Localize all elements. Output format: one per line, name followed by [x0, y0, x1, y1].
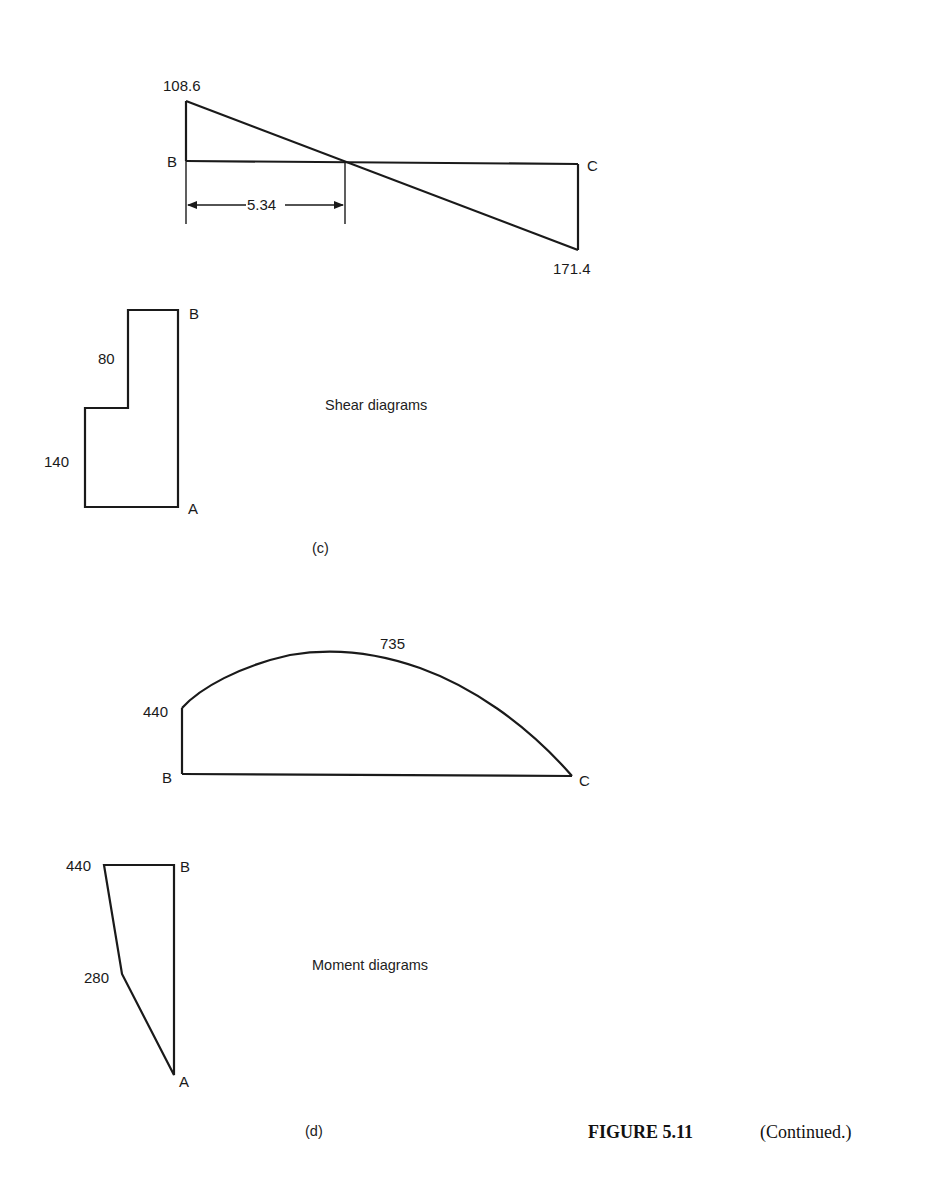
node-label-b: B: [162, 769, 172, 786]
node-label-a: A: [179, 1073, 189, 1090]
zero-shear-distance: 5.34: [247, 196, 276, 213]
moment-curve: [182, 652, 572, 776]
moment-diagrams-title: Moment diagrams: [312, 957, 428, 973]
figure-5-11: 108.6 B C 171.4 5.34 B 80 140 A Shear di…: [0, 0, 931, 1177]
column-moment-mid-value: 280: [84, 969, 109, 986]
shear-diagram-beam-bc: 108.6 B C 171.4 5.34: [163, 77, 598, 277]
column-moment-top-value: 440: [66, 857, 91, 874]
moment-diagram-column-ab: 440 B 280 A: [66, 857, 190, 1090]
node-label-c: C: [587, 157, 598, 174]
figure-continued: (Continued.): [760, 1122, 852, 1143]
shear-right-value: 171.4: [553, 260, 591, 277]
column-shear-outline: [85, 310, 178, 507]
node-label-b: B: [189, 305, 199, 322]
beam-baseline: [186, 161, 578, 164]
moment-max-value: 735: [380, 635, 405, 652]
shear-line: [186, 101, 578, 250]
panel-tag-c: (c): [312, 540, 329, 556]
node-label-a: A: [188, 500, 198, 517]
column-moment-outline: [104, 865, 174, 1075]
node-label-b: B: [180, 858, 190, 875]
figure-number: FIGURE 5.11: [588, 1122, 693, 1142]
panel-tag-d: (d): [305, 1123, 323, 1139]
node-label-b: B: [167, 153, 177, 170]
shear-left-value: 108.6: [163, 77, 201, 94]
shear-diagrams-title: Shear diagrams: [325, 397, 427, 413]
column-shear-lower-value: 140: [44, 453, 69, 470]
node-label-c: C: [579, 772, 590, 789]
shear-diagram-column-ab: B 80 140 A: [44, 305, 199, 517]
column-shear-upper-value: 80: [98, 350, 115, 367]
moment-diagram-beam-bc: 440 B C 735: [143, 635, 590, 789]
moment-left-value: 440: [143, 703, 168, 720]
beam-baseline: [182, 774, 572, 776]
